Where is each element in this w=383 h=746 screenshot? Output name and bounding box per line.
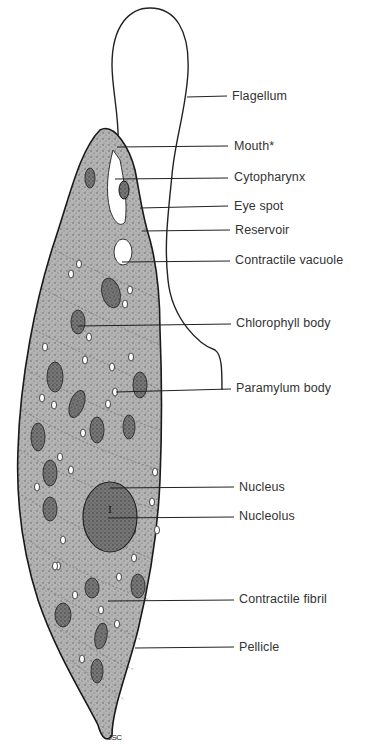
eye-spot-shape: [119, 181, 129, 199]
label-reservoir: Reservoir: [235, 223, 289, 237]
nucleus-shape: [83, 482, 137, 552]
label-paramylum-body: Paramylum body: [236, 381, 331, 395]
label-eye-spot: Eye spot: [234, 199, 283, 213]
label-flagellum: Flagellum: [232, 89, 287, 103]
label-pellicle: Pellicle: [239, 640, 279, 654]
label-nucleus: Nucleus: [239, 480, 285, 494]
label-mouth: Mouth*: [234, 139, 274, 153]
label-chlorophyll-body: Chlorophyll body: [236, 316, 331, 330]
nucleolus-mark: I: [108, 504, 112, 515]
label-nucleolus: Nucleolus: [239, 509, 295, 523]
contractile-vacuole-shape: [114, 239, 132, 265]
label-contractile-fibril: Contractile fibril: [239, 592, 327, 606]
label-contractile-vacuole: Contractile vacuole: [235, 253, 343, 267]
artist-signature: JSC: [108, 733, 122, 742]
label-cytopharynx: Cytopharynx: [234, 170, 305, 184]
euglena-diagram: I: [0, 0, 383, 746]
